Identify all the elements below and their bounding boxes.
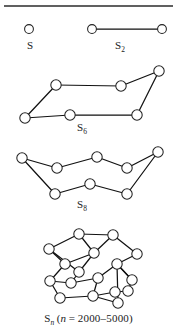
atom-node xyxy=(51,80,61,90)
atom-node xyxy=(122,163,132,173)
atom-node xyxy=(85,179,95,189)
atom-node xyxy=(132,249,142,259)
atom-node xyxy=(89,248,99,258)
bond-edge xyxy=(25,85,56,118)
atom-node xyxy=(158,25,167,34)
atom-node xyxy=(60,259,70,269)
atom-node xyxy=(74,229,84,239)
structure-sn xyxy=(44,229,142,308)
atom-node xyxy=(74,267,84,277)
atom-node xyxy=(55,293,65,303)
caption-sn-range: 2000–5000 xyxy=(78,312,129,324)
atom-node xyxy=(45,276,55,286)
bond-edge xyxy=(90,184,127,194)
bond-edge xyxy=(137,71,159,115)
atom-node xyxy=(113,298,123,308)
atom-node xyxy=(50,189,60,199)
caption-sn-paren-close: ) xyxy=(129,312,133,324)
caption-sn-equals: = xyxy=(66,312,78,324)
structure-s xyxy=(25,25,34,34)
atom-node xyxy=(108,230,118,240)
atom-node xyxy=(17,153,27,163)
structure-s8 xyxy=(17,147,163,199)
caption-s: S xyxy=(14,40,46,51)
caption-s8: S8 xyxy=(62,199,102,210)
atom-node xyxy=(154,66,164,76)
atom-node xyxy=(123,286,133,296)
atom-node xyxy=(112,259,122,269)
bond-edge xyxy=(127,152,158,194)
atom-node xyxy=(66,278,76,288)
bond-edge xyxy=(25,115,70,118)
atom-node xyxy=(25,25,34,34)
atom-node xyxy=(52,163,62,173)
caption-s6: S6 xyxy=(62,122,102,133)
atom-node xyxy=(20,113,30,123)
caption-s6-subscript: 6 xyxy=(83,127,87,136)
caption-s8-subscript: 8 xyxy=(83,204,87,213)
atom-node xyxy=(92,152,102,162)
atom-node xyxy=(110,287,120,297)
atom-node xyxy=(88,291,98,301)
atom-node xyxy=(65,110,75,120)
atom-node xyxy=(127,275,137,285)
atom-node xyxy=(153,147,163,157)
atom-node xyxy=(122,189,132,199)
caption-s2-subscript: 2 xyxy=(121,45,125,54)
bond-edge xyxy=(56,85,121,86)
structure-s2 xyxy=(88,25,167,34)
atom-node xyxy=(93,273,103,283)
bond-edge xyxy=(22,158,55,194)
atom-node xyxy=(44,244,54,254)
caption-s2: S2 xyxy=(104,40,136,51)
atom-node xyxy=(132,110,142,120)
caption-sn: Sn (n = 2000–5000) xyxy=(0,313,177,324)
figure-root: S S2 S6 S8 Sn (n = 2000–5000) xyxy=(0,0,177,333)
caption-sn-subscript: n xyxy=(50,318,54,327)
bond-edge xyxy=(57,157,97,168)
caption-s-base: S xyxy=(27,39,33,51)
atom-node xyxy=(88,25,97,34)
atom-node xyxy=(116,81,126,91)
structure-s6 xyxy=(20,66,164,123)
